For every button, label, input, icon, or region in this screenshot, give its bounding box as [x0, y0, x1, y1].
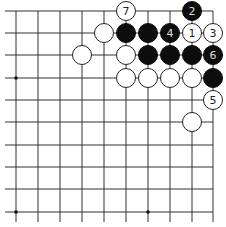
move-number: 5 [210, 94, 217, 107]
black-stone[interactable]: 2 [182, 1, 202, 21]
move-number: 3 [210, 27, 217, 40]
star-point [14, 76, 18, 80]
white-stone[interactable] [160, 68, 180, 88]
star-point [146, 210, 150, 214]
black-stone[interactable] [138, 45, 158, 65]
black-stone[interactable] [116, 23, 136, 43]
black-stone[interactable]: 4 [160, 23, 180, 43]
white-stone[interactable] [94, 23, 114, 43]
white-stone[interactable]: 1 [182, 23, 202, 43]
move-number: 6 [210, 49, 217, 62]
move-number: 4 [167, 27, 174, 40]
black-stone[interactable] [138, 23, 158, 43]
white-stone[interactable] [72, 45, 92, 65]
move-number: 7 [123, 5, 130, 18]
move-number: 2 [189, 5, 196, 18]
move-number: 1 [189, 27, 196, 40]
star-point [14, 210, 18, 214]
white-stone[interactable]: 5 [203, 90, 223, 110]
white-stone[interactable] [182, 112, 202, 132]
white-stone[interactable]: 7 [116, 1, 136, 21]
black-stone[interactable]: 6 [203, 45, 223, 65]
white-stone[interactable] [182, 68, 202, 88]
white-stone[interactable] [138, 68, 158, 88]
black-stone[interactable] [160, 45, 180, 65]
white-stone[interactable] [116, 68, 136, 88]
black-stone[interactable] [182, 45, 202, 65]
black-stone[interactable] [203, 68, 223, 88]
go-board[interactable]: 7241365 [0, 0, 226, 227]
white-stone[interactable] [116, 45, 136, 65]
white-stone[interactable]: 3 [203, 23, 223, 43]
